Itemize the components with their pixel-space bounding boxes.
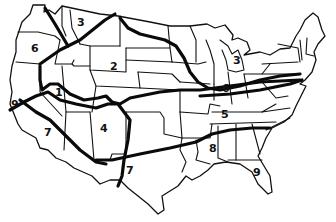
zone-label-7-texas: 7 bbox=[126, 164, 134, 177]
zone-label-3-michigan: 3 bbox=[233, 54, 241, 67]
zone-label-8: 8 bbox=[209, 142, 217, 155]
zone-label-5: 5 bbox=[221, 108, 229, 121]
zone-label-3-northwest: 3 bbox=[77, 16, 85, 29]
zone-label-1: 1 bbox=[55, 86, 63, 99]
zone-label-6-midwest: 6 bbox=[222, 82, 230, 95]
zone-label-9-florida: 9 bbox=[253, 166, 261, 179]
zone-label-4: 4 bbox=[100, 122, 108, 135]
zone-label-7-california: 7 bbox=[44, 126, 52, 139]
zone-label-9-california: 9 bbox=[11, 98, 19, 111]
zone-label-2: 2 bbox=[110, 60, 118, 73]
us-zone-map: 1 2 3 3 4 5 6 6 7 7 8 9 9 bbox=[0, 0, 336, 222]
zone-label-6-oregon: 6 bbox=[31, 42, 39, 55]
